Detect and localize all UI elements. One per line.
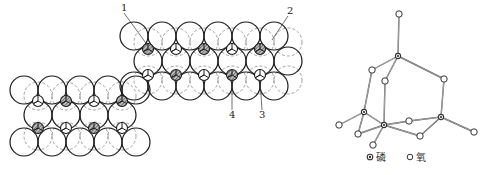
oxygen-atom <box>406 118 412 124</box>
bond-line-inner <box>441 117 474 132</box>
oxygen-atom <box>370 142 376 148</box>
phosphorus-atom-dot <box>440 116 442 118</box>
legend-phosphorus-label: 磷 <box>376 151 386 163</box>
phosphorus-atom-dot <box>397 55 399 57</box>
label-leader-line <box>260 80 262 110</box>
oxygen-legend-icon <box>407 154 413 160</box>
label-leader-line <box>124 13 148 46</box>
sphere <box>274 47 302 75</box>
legend-oxygen-label: 氧 <box>416 151 426 163</box>
phosphorus-atom-dot <box>383 124 385 126</box>
diagram-canvas: 1234 磷 氧 <box>0 0 484 175</box>
label-4: 4 <box>229 109 235 120</box>
bond-line-inner <box>364 112 384 125</box>
oxygen-atom <box>417 133 423 139</box>
bond-line-inner <box>364 70 372 112</box>
phosphorus-atom-dot <box>363 111 365 113</box>
oxygen-atom <box>369 67 375 73</box>
oxygen-atom <box>355 131 361 137</box>
label-2: 2 <box>287 5 293 16</box>
phosphorus-legend-dot <box>369 156 371 158</box>
oxygen-atom <box>336 122 342 128</box>
bond-line-inner <box>398 56 444 79</box>
void-labels: 1234 <box>121 2 293 120</box>
oxygen-atom <box>471 129 477 135</box>
oxygen-atom <box>441 76 447 82</box>
oxygen-atom <box>382 78 388 84</box>
label-3: 3 <box>259 109 265 120</box>
label-1: 1 <box>121 2 127 13</box>
upper-lattice <box>120 22 302 100</box>
molecule-structure <box>336 11 477 148</box>
lower-lattice <box>10 76 150 156</box>
oxygen-atom <box>396 11 402 17</box>
bond-line-inner <box>441 79 444 117</box>
bond-line-inner <box>339 112 364 125</box>
close-packing-diagram <box>10 22 302 156</box>
bond-line-inner <box>384 125 420 136</box>
bond-line-inner <box>384 121 409 125</box>
legend: 磷 氧 <box>367 151 426 163</box>
